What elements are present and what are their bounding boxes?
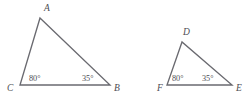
vertex-label-c: C xyxy=(7,83,14,93)
geometry-figure: A C B 80° 35° D F E 80° 35° xyxy=(0,0,250,100)
vertex-label-f: F xyxy=(156,83,163,93)
angle-label-b-35: 35° xyxy=(82,74,93,83)
angle-label-c-80: 80° xyxy=(29,74,40,83)
angle-label-f-80: 80° xyxy=(172,74,183,83)
vertex-label-b: B xyxy=(114,83,120,93)
vertex-label-d: D xyxy=(182,27,190,37)
vertex-label-e: E xyxy=(235,83,242,93)
figure-canvas: A C B 80° 35° D F E 80° 35° xyxy=(0,0,250,100)
angle-label-e-35: 35° xyxy=(202,74,213,83)
triangle-def-group: D F E 80° 35° xyxy=(156,27,242,93)
vertex-label-a: A xyxy=(43,3,50,13)
triangle-abc-group: A C B 80° 35° xyxy=(7,3,120,93)
